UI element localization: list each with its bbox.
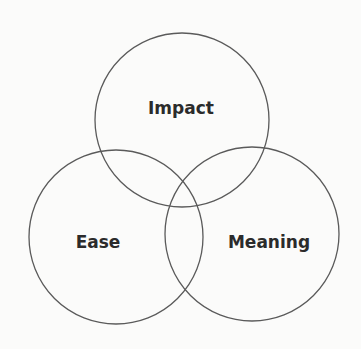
label-impact: Impact xyxy=(148,98,214,118)
label-ease: Ease xyxy=(76,232,121,252)
venn-diagram: Impact Ease Meaning xyxy=(0,0,361,349)
venn-svg: Impact Ease Meaning xyxy=(0,0,361,349)
circle-meaning-group: Meaning xyxy=(165,147,339,321)
label-meaning: Meaning xyxy=(228,232,310,252)
